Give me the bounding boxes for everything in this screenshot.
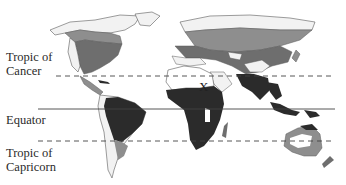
equator-label: Equator: [5, 113, 47, 127]
india-south-asia: [236, 74, 270, 100]
oceania: [270, 102, 334, 168]
japan: [292, 50, 300, 62]
caribbean: [98, 80, 110, 84]
tropic-of-cancer-label-line2: Cancer: [6, 64, 52, 78]
tropic-of-capricorn-label: Tropic of Capricorn: [5, 146, 57, 174]
equator-label-text: Equator: [6, 113, 46, 127]
location-marker-x: X: [199, 79, 208, 95]
tropic-of-capricorn-label-line2: Capricorn: [6, 160, 56, 174]
africa-east-highland: [205, 108, 210, 122]
new-guinea: [304, 110, 320, 118]
africa-tropical: [166, 86, 224, 150]
tropic-of-cancer-label: Tropic of Cancer: [5, 50, 53, 78]
central-america: [80, 76, 103, 95]
north-america-temperate: [75, 40, 122, 74]
north-america: [50, 12, 160, 95]
madagascar: [222, 122, 228, 138]
greenland: [135, 12, 160, 26]
tropic-of-cancer-label-line1: Tropic of: [6, 50, 52, 64]
new-zealand: [322, 156, 334, 168]
south-america: [98, 95, 146, 178]
tropic-of-capricorn-label-line1: Tropic of: [6, 146, 56, 160]
